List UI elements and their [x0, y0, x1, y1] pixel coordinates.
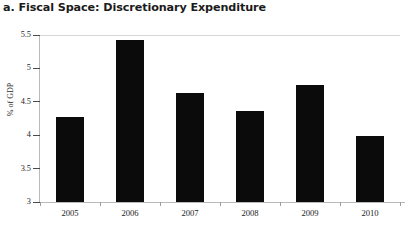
y-axis-tick-label: 3.5 [6, 164, 31, 173]
y-axis-tick [33, 202, 40, 203]
x-axis-tick-label-2006: 2006 [100, 208, 160, 218]
x-axis-tick-label-2005: 2005 [40, 208, 100, 218]
y-axis-tick [33, 101, 40, 102]
bar-2006 [116, 40, 144, 202]
x-axis-tick-label-2009: 2009 [280, 208, 340, 218]
x-axis-tick-label-2008: 2008 [220, 208, 280, 218]
x-axis-tick [160, 202, 161, 206]
chart-title: a. Fiscal Space: Discretionary Expenditu… [3, 1, 266, 14]
y-axis-tick-label: 3 [6, 197, 31, 206]
x-axis-tick [340, 202, 341, 206]
y-axis-tick [33, 35, 40, 36]
y-axis-tick [33, 168, 40, 169]
y-axis-tick-label: 5 [6, 63, 31, 72]
bar-2005 [56, 117, 84, 202]
chart-figure: a. Fiscal Space: Discretionary Expenditu… [0, 0, 415, 232]
bar-2010 [356, 136, 384, 202]
x-axis-tick [400, 202, 401, 206]
top-gridline [40, 35, 400, 36]
x-axis-tick [40, 202, 41, 206]
x-axis-tick-label-2007: 2007 [160, 208, 220, 218]
plot-area [40, 35, 400, 202]
bar-2009 [296, 85, 324, 202]
bar-2007 [176, 93, 204, 202]
y-axis-tick-label: 4 [6, 130, 31, 139]
x-axis-tick [220, 202, 221, 206]
y-axis-tick [33, 135, 40, 136]
y-axis-tick-label: 5.5 [6, 30, 31, 39]
x-axis-line [33, 202, 405, 203]
y-axis-tick [33, 68, 40, 69]
bar-2008 [236, 111, 264, 202]
y-axis-tick-label: 4.5 [6, 97, 31, 106]
x-axis-tick-label-2010: 2010 [340, 208, 400, 218]
x-axis-tick [100, 202, 101, 206]
x-axis-tick [280, 202, 281, 206]
